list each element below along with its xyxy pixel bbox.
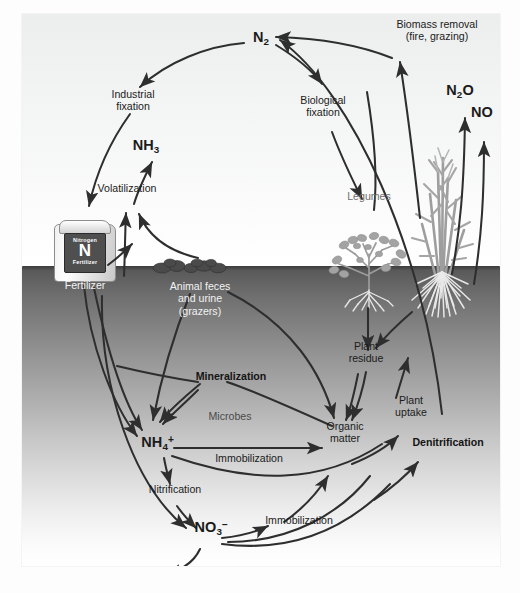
- label-nitrification: Nitrification: [123, 483, 227, 495]
- label-no: NO: [462, 104, 500, 121]
- label-microbes: Microbes: [190, 410, 270, 422]
- label-nh4: NH4+: [114, 434, 174, 452]
- arrow-fertilizer-to-nh4-a: [84, 286, 137, 436]
- label-fertilizer: Fertilizer: [42, 279, 128, 291]
- arrow-no3-to-denitrification-head: [374, 462, 418, 500]
- arrow-n2-to-industrial-fixation: [140, 43, 244, 87]
- arrow-n2-to-biological-fixation: [276, 45, 322, 84]
- arrow-fertilizer-to-volatilization: [108, 244, 132, 265]
- figure-page: Nitrogen N Fertilizer: [0, 0, 520, 593]
- label-no3: NO3−: [170, 519, 228, 537]
- label-immobilization-upper: Immobilization: [187, 452, 311, 464]
- label-volatilization: Volatilization: [72, 182, 182, 194]
- arrow-no3-to-immobilization: [222, 526, 268, 538]
- label-legumes: Legumes: [327, 190, 411, 202]
- label-n2o: N2O: [434, 82, 486, 100]
- arrow-denitrification-to-n2o: [452, 118, 465, 274]
- arrow-soil-to-volatilization: [124, 213, 126, 276]
- label-nh3: NH3: [122, 137, 170, 155]
- label-plant-residue: Plantresidue: [333, 340, 399, 365]
- label-plant-uptake: Plantuptake: [378, 394, 444, 419]
- label-organic-matter: Organicmatter: [309, 420, 381, 445]
- label-immobilization-lower: Immobilization: [237, 514, 361, 526]
- arrow-biological-fixation-to-legumes: [332, 132, 362, 199]
- label-mineralization: Mineralization: [175, 370, 287, 382]
- arrow-feces-to-volatilization: [139, 214, 198, 258]
- label-biomass-removal: Biomass removal(fire, grazing): [372, 18, 500, 43]
- arrow-no3-to-leaching: [166, 549, 200, 566]
- label-denitrification: Denitrification: [396, 436, 500, 448]
- arrow-plant-residue-to-organic-matter: [346, 374, 358, 420]
- label-industrial-fixation: Industrialfixation: [85, 88, 181, 113]
- arrow-denitrification-to-no: [474, 142, 484, 284]
- arrow-nh4-to-nitrification: [164, 458, 170, 484]
- label-biological-fixation: Biologicalfixation: [275, 94, 371, 119]
- nitrogen-cycle-figure: Nitrogen N Fertilizer: [22, 14, 500, 566]
- label-n2: N2: [244, 29, 278, 47]
- label-animal-feces: Animal fecesand urine(grazers): [146, 280, 254, 317]
